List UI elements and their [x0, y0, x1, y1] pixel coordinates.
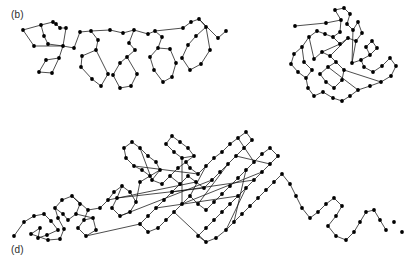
figure-canvas: (b) (c) (d) — [0, 0, 419, 259]
graph-edge — [76, 214, 93, 218]
panel-label-b: (b) — [11, 10, 24, 20]
graph-edge — [326, 20, 341, 23]
graph-edge — [174, 212, 206, 242]
graph-node — [272, 180, 276, 184]
graph-node — [346, 36, 350, 40]
graph-node — [184, 160, 188, 164]
graph-node — [32, 214, 36, 218]
graph-node — [128, 210, 132, 214]
graph-node — [392, 220, 396, 224]
graph-edge — [201, 50, 210, 64]
graph-node — [132, 164, 136, 168]
graph-node — [194, 180, 198, 184]
graph-edge — [63, 28, 66, 46]
graph-node — [186, 43, 190, 47]
graph-node — [332, 86, 336, 90]
graph-node — [324, 80, 328, 84]
graph-node — [61, 212, 65, 216]
graph-edge — [96, 50, 108, 74]
graph-node — [348, 12, 352, 16]
graph-node — [362, 65, 366, 69]
graph-node — [37, 70, 41, 74]
graph-node — [74, 212, 78, 216]
graph-node — [91, 216, 95, 220]
graph-node — [250, 138, 254, 142]
graph-node — [12, 234, 16, 238]
graph-edge — [110, 30, 123, 33]
graph-node — [156, 226, 160, 230]
graph-node — [256, 196, 260, 200]
graph-node — [342, 68, 346, 72]
graph-node — [236, 194, 240, 198]
graph-node — [220, 210, 224, 214]
graph-node — [212, 200, 216, 204]
graph-node — [324, 202, 328, 206]
graph-node — [359, 58, 363, 62]
graph-node — [228, 184, 232, 188]
graph-edge — [154, 70, 163, 82]
graph-edge — [23, 25, 41, 30]
graph-node — [60, 198, 64, 202]
graph-node — [326, 224, 330, 228]
graph-node — [354, 39, 358, 43]
graph-edge — [113, 75, 120, 88]
graph-node — [204, 25, 208, 29]
graph-node — [242, 146, 246, 150]
graph-node — [302, 60, 306, 64]
graph-node — [304, 76, 308, 80]
graph-node — [168, 174, 172, 178]
graph-edge — [302, 208, 310, 218]
panel-c: (c) — [278, 0, 419, 120]
graph-node — [364, 210, 368, 214]
graph-node — [61, 44, 65, 48]
graph-node — [192, 154, 196, 158]
graph-node — [244, 168, 248, 172]
graph-node — [252, 160, 256, 164]
graph-edge — [46, 58, 59, 60]
graph-node — [188, 68, 192, 72]
graph-node — [202, 186, 206, 190]
graph-node — [22, 220, 26, 224]
graph-node — [138, 180, 142, 184]
graph-node — [220, 192, 224, 196]
graph-edge — [296, 196, 302, 208]
graph-node — [218, 170, 222, 174]
graph-node — [164, 218, 168, 222]
graph-node — [78, 30, 82, 34]
graph-node — [98, 206, 102, 210]
graph-node — [54, 22, 58, 26]
graph-node — [36, 236, 40, 240]
graph-node — [46, 238, 50, 242]
graph-edge — [206, 27, 210, 50]
graph-edge — [295, 23, 326, 26]
graph-node — [293, 24, 297, 28]
graph-node — [89, 29, 93, 33]
graph-node — [128, 190, 132, 194]
graph-node — [168, 47, 172, 51]
graph-edge — [39, 60, 46, 72]
graph-node — [388, 56, 392, 60]
graph-node — [154, 160, 158, 164]
graph-node — [53, 206, 57, 210]
graph-edge — [86, 224, 140, 236]
graph-node — [316, 210, 320, 214]
graph-node — [307, 35, 311, 39]
graph-node — [300, 206, 304, 210]
graph-node — [160, 182, 164, 186]
graph-edge — [328, 226, 336, 236]
graph-node — [375, 46, 379, 50]
graph-node — [127, 41, 131, 45]
graph-node — [379, 80, 383, 84]
graph-node — [42, 34, 46, 38]
graph-node — [197, 17, 201, 21]
graph-node — [232, 220, 236, 224]
graph-node — [170, 134, 174, 138]
graph-node — [368, 84, 372, 88]
graph-node — [204, 208, 208, 212]
graph-node — [39, 23, 43, 27]
graph-node — [358, 220, 362, 224]
graph-node — [188, 166, 192, 170]
graph-node — [384, 228, 388, 232]
graph-node — [371, 70, 375, 74]
graph-node — [340, 99, 344, 103]
